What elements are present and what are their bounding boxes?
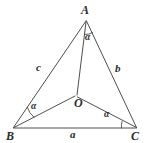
vertex-label-A: A (81, 4, 89, 16)
vertex-label-O: O (74, 97, 83, 109)
figure-canvas (0, 0, 147, 143)
arc-angle-at-C (121, 122, 122, 129)
geometry-figure: A B C O c b a α α α (0, 0, 147, 143)
angle-label-at-A: α (85, 33, 90, 43)
line-segment-BO (14, 96, 75, 128)
line-side-c (14, 21, 87, 128)
angle-label-at-B: α (31, 102, 36, 112)
vertex-label-B: B (6, 130, 14, 142)
angle-label-at-C: α (104, 110, 109, 120)
line-side-b (87, 21, 137, 128)
side-label-b: b (115, 63, 121, 74)
side-label-a: a (70, 129, 76, 140)
vertex-label-C: C (131, 130, 139, 142)
side-label-c: c (36, 62, 41, 73)
